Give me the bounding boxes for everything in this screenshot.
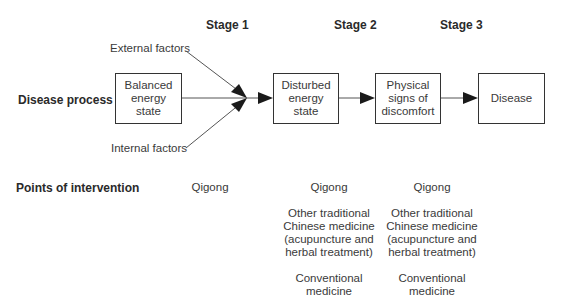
- arrow-to-disturbed-icon: [258, 92, 273, 104]
- external-arrowhead-icon: [231, 84, 247, 98]
- intervention-qigong: Qigong: [382, 181, 482, 194]
- intervention-qigong: Qigong: [180, 181, 240, 194]
- box-text-line: Physical: [381, 79, 434, 92]
- intervention-text-line: Other traditional: [279, 207, 379, 220]
- box-balanced-energy-state: Balanced energy state: [115, 73, 182, 124]
- stage-2-interventions: Qigong Other traditional Chinese medicin…: [279, 181, 379, 307]
- stage-3-interventions: Qigong Other traditional Chinese medicin…: [382, 181, 482, 307]
- box-disease: Disease: [478, 73, 545, 124]
- intervention-other-tcm: Other traditional Chinese medicine (acup…: [279, 207, 379, 259]
- box-text-line: signs of: [381, 92, 434, 105]
- arrow-to-physical-icon: [360, 92, 375, 104]
- box-text-line: energy: [125, 92, 173, 105]
- intervention-text-line: herbal treatment): [279, 246, 379, 259]
- intervention-qigong: Qigong: [279, 181, 379, 194]
- box-physical-signs-of-discomfort: Physical signs of discomfort: [375, 73, 441, 124]
- arrow-to-disease-icon: [463, 92, 478, 104]
- intervention-text-line: (acupuncture and: [382, 233, 482, 246]
- intervention-text-line: Other traditional: [382, 207, 482, 220]
- box-text-line: Balanced: [125, 79, 173, 92]
- box-text-line: discomfort: [381, 105, 434, 118]
- box-text-line: energy: [281, 92, 330, 105]
- intervention-text-line: Chinese medicine: [382, 220, 482, 233]
- intervention-other-tcm: Other traditional Chinese medicine (acup…: [382, 207, 482, 259]
- intervention-text-line: herbal treatment): [382, 246, 482, 259]
- stage-1-interventions: Qigong: [180, 181, 240, 207]
- intervention-text-line: Conventional: [279, 272, 379, 285]
- box-disturbed-energy-state: Disturbed energy state: [273, 73, 339, 124]
- intervention-text-line: Chinese medicine: [279, 220, 379, 233]
- box-text-line: Disturbed: [281, 79, 330, 92]
- intervention-text-line: medicine: [279, 285, 379, 298]
- intervention-text-line: Conventional: [382, 272, 482, 285]
- box-text-line: state: [125, 105, 173, 118]
- box-text-line: Disease: [491, 92, 533, 105]
- intervention-conventional-medicine: Conventional medicine: [279, 272, 379, 298]
- intervention-text-line: (acupuncture and: [279, 233, 379, 246]
- intervention-conventional-medicine: Conventional medicine: [382, 272, 482, 298]
- intervention-text-line: medicine: [382, 285, 482, 298]
- box-text-line: state: [281, 105, 330, 118]
